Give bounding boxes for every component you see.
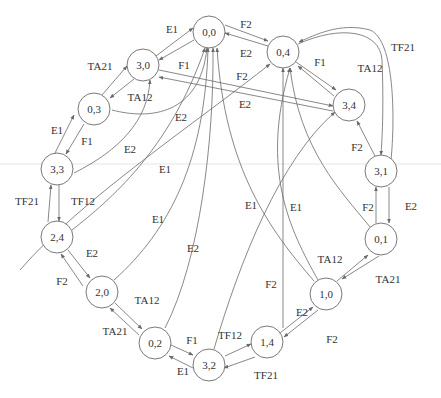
edge-1-4-to-3-2 [224, 357, 255, 368]
edge-label: TF21 [15, 195, 39, 207]
edge-label: F2 [265, 278, 277, 290]
edge-label: E2 [296, 306, 308, 318]
state-node-0-2: 0,2 [139, 327, 171, 359]
edge-3-4-to-0-4 [298, 66, 334, 96]
state-node-1-0: 1,0 [310, 278, 342, 310]
state-node-1-4: 1,4 [251, 326, 283, 358]
edge-label: TF21 [254, 369, 278, 381]
edge-0-2-to-3-2 [171, 345, 193, 355]
edge-label: TF12 [218, 329, 242, 341]
edge-label: F2 [326, 333, 338, 345]
edge-0-3-to-0-0 [112, 48, 207, 114]
edge-labels-layer: E1F2E2TA21TA12F1E2E2E1F1E2F1F2TA12TF21F2… [15, 18, 417, 381]
state-node-label: 3,3 [50, 163, 64, 175]
edge-label: TA12 [128, 91, 153, 103]
edge-label: E1 [51, 124, 63, 136]
edge-label: E2 [187, 242, 199, 254]
state-node-label: 0,0 [202, 26, 216, 38]
state-node-3-0: 3,0 [127, 49, 159, 81]
state-node-label: 0,1 [374, 233, 388, 245]
edge-label: E2 [405, 200, 417, 212]
state-node-3-4: 3,4 [333, 89, 365, 121]
edge-label: F2 [236, 70, 248, 82]
state-node-2-4: 2,4 [41, 221, 73, 253]
edge-label: F2 [240, 18, 252, 30]
state-node-label: 2,0 [95, 286, 109, 298]
edge-label: E2 [124, 143, 136, 155]
edge-label: E1 [177, 365, 189, 377]
edge-label: TA21 [88, 60, 113, 72]
state-node-0-3: 0,3 [78, 93, 110, 125]
edge-label: TA12 [358, 62, 383, 74]
edge-label: E2 [86, 247, 98, 259]
state-node-label: 3,0 [136, 59, 150, 71]
state-diagram: E1F2E2TA21TA12F1E2E2E1F1E2F1F2TA12TF21F2… [0, 0, 441, 398]
state-node-label: 2,4 [50, 231, 64, 243]
state-node-label: 3,1 [374, 165, 388, 177]
state-node-3-2: 3,2 [193, 349, 225, 381]
state-node-label: 3,4 [342, 99, 356, 111]
state-node-label: 0,4 [276, 46, 290, 58]
edge-label: E1 [245, 199, 257, 211]
edge-label: TF21 [391, 41, 415, 53]
edge-label: TA21 [376, 273, 401, 285]
edge-0-4-to-0-0 [225, 33, 268, 46]
state-node-0-0: 0,0 [193, 16, 225, 48]
edge-3-2-to-1-4 [225, 344, 251, 356]
edge-label: F1 [186, 334, 198, 346]
state-node-0-1: 0,1 [365, 223, 397, 255]
state-node-label: 0,3 [87, 103, 101, 115]
state-node-3-3: 3,3 [41, 153, 73, 185]
edge-label: TF12 [71, 195, 95, 207]
state-node-label: 0,2 [148, 337, 162, 349]
edge-label: TA12 [135, 294, 160, 306]
state-node-0-4: 0,4 [267, 36, 299, 68]
edge-label: TA12 [318, 253, 343, 265]
state-node-label: 1,0 [319, 288, 333, 300]
edge-label: E2 [240, 47, 252, 59]
edge-label: E1 [290, 201, 302, 213]
edge-2-4-to-3-3 [48, 185, 51, 222]
edge-1-0-to-0-4 [278, 68, 318, 280]
edge-label: E1 [166, 23, 178, 35]
edge-0-1-to-1-0 [342, 256, 379, 279]
state-node-label: 1,4 [260, 336, 274, 348]
edge-label: F1 [314, 56, 326, 68]
edge-label: E1 [159, 163, 171, 175]
edge-label: F2 [56, 275, 68, 287]
edge-label: F2 [362, 201, 374, 213]
state-node-3-1: 3,1 [365, 155, 397, 187]
state-node-2-0: 2,0 [86, 276, 118, 308]
edge-label: F1 [81, 135, 93, 147]
edge-0-2-to-0-0 [165, 48, 213, 328]
edge-label: E1 [152, 213, 164, 225]
edge-label: E2 [239, 98, 251, 110]
state-node-label: 3,2 [202, 359, 216, 371]
edge-label: TA21 [103, 325, 128, 337]
edge-label: E2 [175, 111, 187, 123]
edge-label: F1 [178, 59, 190, 71]
edge-label: F2 [351, 141, 363, 153]
